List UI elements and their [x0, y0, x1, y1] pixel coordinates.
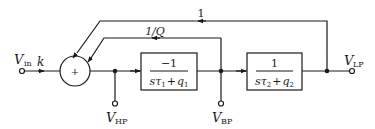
lp-terminal [350, 69, 355, 74]
lp-node [325, 69, 330, 74]
block2-denominator: sτ2+q2 [255, 75, 294, 89]
vhp-subscript: HP [115, 117, 128, 126]
bp-node [219, 69, 224, 74]
vin-subscript: in [24, 59, 32, 68]
bp-feedback-gain: 1/Q [145, 25, 165, 38]
state-variable-filter-diagram: + V in k −1 sτ1+q1 1 sτ2+q2 1 1/Q V HP V… [0, 0, 375, 129]
block1-denominator: sτ1+q1 [150, 75, 189, 89]
sum-sign: + [71, 66, 79, 77]
gain-k-label: k [37, 55, 44, 69]
block1-numerator: −1 [161, 57, 177, 70]
hp-node [113, 69, 118, 74]
hp-terminal [113, 101, 118, 106]
vbp-subscript: BP [221, 117, 233, 126]
bp-terminal [219, 101, 224, 106]
input-terminal [20, 69, 25, 74]
block2-numerator: 1 [271, 57, 278, 70]
lp-feedback-gain: 1 [198, 7, 205, 20]
vlp-subscript: LP [353, 60, 364, 69]
